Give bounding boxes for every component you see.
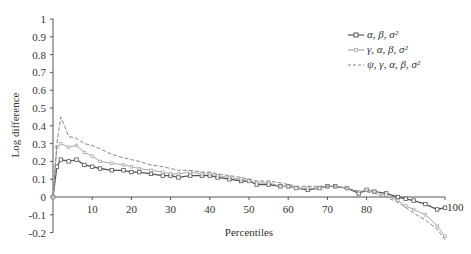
legend-item-pgabs: ψ, γ, α, β, σ² — [348, 57, 420, 72]
light-line-icon — [348, 46, 364, 54]
y-tick-label: 0.4 — [32, 120, 46, 132]
y-tick-label: 0.8 — [32, 49, 46, 61]
x-tick-label: 20 — [126, 203, 138, 215]
y-tick-label: 0.5 — [32, 102, 46, 114]
legend-label: α, β, σ² — [367, 27, 398, 42]
legend: α, β, σ² γ, α, β, σ² ψ, γ, α, β, σ² — [348, 27, 420, 72]
x-axis-title: Percentiles — [225, 226, 273, 238]
y-tick-label: -0.1 — [29, 209, 46, 221]
y-axis-title: Log difference — [9, 92, 21, 157]
y-tick-label: 0 — [41, 191, 47, 203]
solid-square-marker-icon — [348, 31, 364, 39]
legend-item-abs: α, β, σ² — [348, 27, 420, 42]
y-tick-label: 0.1 — [32, 173, 46, 185]
y-tick-label: 0.3 — [32, 138, 46, 150]
y-tick-label: 0.6 — [32, 84, 46, 96]
x-tick-label: 30 — [165, 203, 177, 215]
series-lines — [51, 117, 447, 240]
y-tick-label: 0.7 — [32, 66, 46, 78]
series-line — [53, 144, 445, 237]
series-line — [53, 117, 445, 240]
dashed-line-icon — [348, 61, 364, 69]
y-tick-label: 0.2 — [32, 155, 46, 167]
x-tick-label: 80 — [361, 203, 373, 215]
x-tick-label: 100 — [447, 201, 464, 213]
legend-item-gabs: γ, α, β, σ² — [348, 42, 420, 57]
x-tick-label: 40 — [204, 203, 216, 215]
series-line — [53, 160, 445, 210]
x-tick-label: 10 — [87, 203, 99, 215]
x-tick-label: 50 — [244, 203, 256, 215]
y-tick-label: 0.9 — [32, 31, 46, 43]
x-tick-label: 70 — [322, 203, 334, 215]
x-tick-label: 60 — [283, 203, 295, 215]
y-tick-label: -0.2 — [29, 227, 46, 239]
legend-label: γ, α, β, σ² — [367, 42, 408, 57]
legend-label: ψ, γ, α, β, σ² — [367, 57, 420, 72]
y-tick-label: 1 — [41, 13, 47, 25]
